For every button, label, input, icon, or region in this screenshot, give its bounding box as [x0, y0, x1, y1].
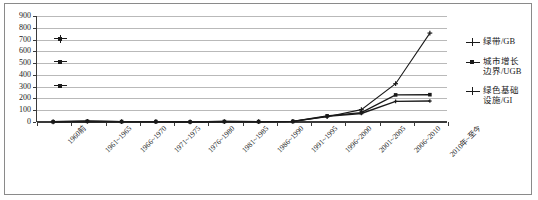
series-line-1	[53, 95, 430, 122]
line-chart: 9008007006005004003002001000 1960前1961~1…	[0, 0, 538, 200]
x-tick-label-9: 2001~2005	[377, 124, 407, 154]
x-tick-label-6: 1986~1990	[275, 124, 305, 154]
y-tick-label-500: 500	[19, 59, 31, 67]
y-tick-mark-0	[33, 122, 36, 123]
legend-marker-cross-small-icon	[466, 86, 480, 96]
legend-marker-cross-icon	[466, 37, 480, 47]
y-axis: 9008007006005004003002001000	[0, 16, 34, 122]
x-tick-label-5: 1981~1985	[240, 124, 270, 154]
y-tick-label-600: 600	[19, 47, 31, 55]
x-tick-label-3: 1971~1975	[172, 124, 202, 154]
x-tick-label-0: 1960前	[66, 124, 88, 146]
chart-legend: 绿带/GB 城市增长 边界/UGB 绿色基础 设施/GI	[466, 36, 536, 114]
legend-item-gi: 绿色基础 设施/GI	[466, 85, 536, 105]
legend-label-gi: 绿色基础 设施/GI	[483, 85, 519, 105]
y-tick-label-900: 900	[19, 12, 31, 20]
legend-marker-square-icon	[466, 57, 480, 67]
x-tick-label-10: 2006~2010	[412, 124, 442, 154]
y-tick-label-200: 200	[19, 94, 31, 102]
y-tick-label-100: 100	[19, 106, 31, 114]
legend-item-gb: 绿带/GB	[466, 36, 536, 47]
x-tick-label-4: 1976~1980	[206, 124, 236, 154]
data-point-2-11	[428, 99, 432, 103]
legend-item-ugb: 城市增长 边界/UGB	[466, 56, 536, 76]
series-layer	[36, 16, 447, 122]
legend-label-gb: 绿带/GB	[483, 36, 515, 46]
series-line-2	[53, 101, 430, 122]
x-axis-labels: 1960前1961~19651966~19701971~19751976~198…	[36, 124, 447, 184]
x-tick-label-7: 1991~1995	[309, 124, 339, 154]
y-tick-label-700: 700	[19, 36, 31, 44]
x-tick-label-2: 1966~1970	[138, 124, 168, 154]
y-tick-label-0: 0	[27, 118, 31, 126]
x-tick-label-1: 1961~1965	[103, 124, 133, 154]
x-tick-12	[448, 122, 449, 126]
y-tick-label-800: 800	[19, 24, 31, 32]
legend-label-ugb: 城市增长 边界/UGB	[483, 56, 521, 76]
data-point-2-10	[394, 100, 398, 104]
y-tick-label-300: 300	[19, 83, 31, 91]
data-point-1-10	[394, 93, 398, 97]
data-point-1-11	[428, 93, 432, 97]
y-tick-label-400: 400	[19, 71, 31, 79]
x-tick-label-8: 1996~2000	[343, 124, 373, 154]
